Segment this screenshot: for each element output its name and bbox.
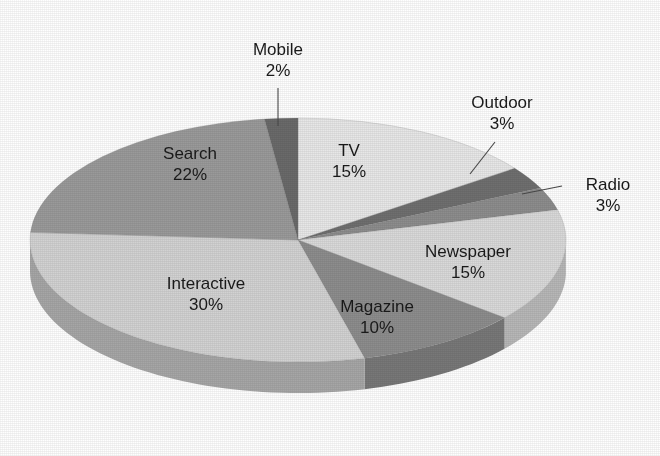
- slice-label-outdoor: Outdoor3%: [471, 93, 533, 133]
- pie-chart-canvas: TV 15%Outdoor 3%Radio 3%Newspaper 15%Mag…: [0, 0, 660, 456]
- slice-value-radio: 3%: [596, 196, 621, 215]
- pie-chart-figure: TV 15%Outdoor 3%Radio 3%Newspaper 15%Mag…: [0, 0, 660, 456]
- slice-label-name-radio: Radio: [586, 175, 630, 194]
- slice-value-magazine: 10%: [360, 318, 394, 337]
- slice-label-name-tv: TV: [338, 141, 360, 160]
- slice-label-name-outdoor: Outdoor: [471, 93, 533, 112]
- slice-label-name-search: Search: [163, 144, 217, 163]
- slice-value-newspaper: 15%: [451, 263, 485, 282]
- slice-label-radio: Radio3%: [586, 175, 630, 215]
- slice-label-name-mobile: Mobile: [253, 40, 303, 59]
- slice-label-name-interactive: Interactive: [167, 274, 245, 293]
- pie-slice-search[interactable]: Search 22%: [31, 119, 298, 240]
- slice-value-outdoor: 3%: [490, 114, 515, 133]
- slice-label-name-newspaper: Newspaper: [425, 242, 511, 261]
- slice-value-interactive: 30%: [189, 295, 223, 314]
- slice-value-mobile: 2%: [266, 61, 291, 80]
- slice-value-tv: 15%: [332, 162, 366, 181]
- slice-label-name-magazine: Magazine: [340, 297, 414, 316]
- slice-value-search: 22%: [173, 165, 207, 184]
- slice-label-mobile: Mobile2%: [253, 40, 303, 80]
